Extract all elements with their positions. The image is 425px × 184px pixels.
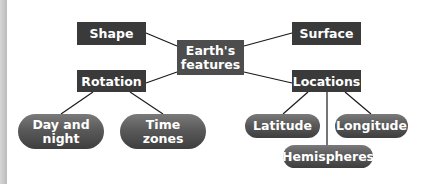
node-locations: Locations	[292, 70, 361, 92]
node-rotation-label: Rotation	[81, 74, 141, 89]
line-locations-longitude	[345, 92, 371, 114]
line-center-locations	[244, 72, 292, 83]
node-shape-label: Shape	[90, 26, 134, 41]
node-earths-features: Earth's features	[177, 40, 244, 75]
center-label-line2: features	[181, 58, 240, 72]
node-surface: Surface	[292, 22, 361, 45]
node-latitude: Latitude	[245, 114, 320, 138]
day-night-line2: night	[42, 132, 79, 146]
line-locations-latitude	[283, 92, 308, 114]
node-locations-label: Locations	[293, 74, 361, 89]
day-night-line1: Day and	[32, 118, 89, 132]
node-surface-label: Surface	[300, 26, 354, 41]
line-center-surface	[244, 33, 292, 46]
node-time-zones: Time zones	[120, 114, 206, 149]
node-day-and-night: Day and night	[18, 114, 104, 149]
center-label-line1: Earth's	[186, 44, 235, 58]
node-hemispheres: Hemispheres	[283, 145, 373, 168]
line-rotation-timezones	[130, 92, 163, 114]
longitude-label: Longitude	[336, 119, 407, 133]
line-rotation-center	[146, 72, 177, 83]
node-longitude: Longitude	[335, 114, 408, 138]
node-shape: Shape	[77, 22, 146, 45]
latitude-label: Latitude	[253, 119, 312, 133]
node-rotation: Rotation	[77, 70, 146, 92]
line-rotation-daynight	[61, 92, 93, 114]
line-shape-center	[146, 33, 177, 46]
hemispheres-label: Hemispheres	[282, 150, 374, 164]
time-zones-line1: Time	[146, 118, 180, 132]
time-zones-line2: zones	[143, 132, 184, 146]
